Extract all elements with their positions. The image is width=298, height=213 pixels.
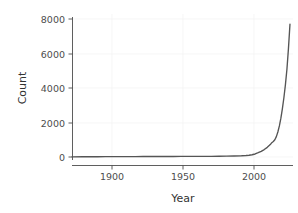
x-axis <box>72 166 293 170</box>
chart-figure: 8000 6000 4000 2000 0 1900 1950 2000 Cou… <box>0 0 298 213</box>
y-tick-label-8000: 8000 <box>41 14 65 25</box>
y-axis <box>69 17 73 160</box>
y-axis-title: Count <box>16 71 29 104</box>
y-tick-label-6000: 6000 <box>41 49 65 60</box>
y-tick-label-4000: 4000 <box>41 83 65 94</box>
y-tick-label-2000: 2000 <box>41 118 65 129</box>
x-axis-title: Year <box>170 192 195 205</box>
x-tick-label-1950: 1950 <box>171 171 195 182</box>
y-tick-label-0: 0 <box>59 152 65 163</box>
x-tick-label-2000: 2000 <box>242 171 266 182</box>
x-tick-label-1900: 1900 <box>100 171 124 182</box>
line-chart-svg: 8000 6000 4000 2000 0 1900 1950 2000 Cou… <box>0 0 298 213</box>
